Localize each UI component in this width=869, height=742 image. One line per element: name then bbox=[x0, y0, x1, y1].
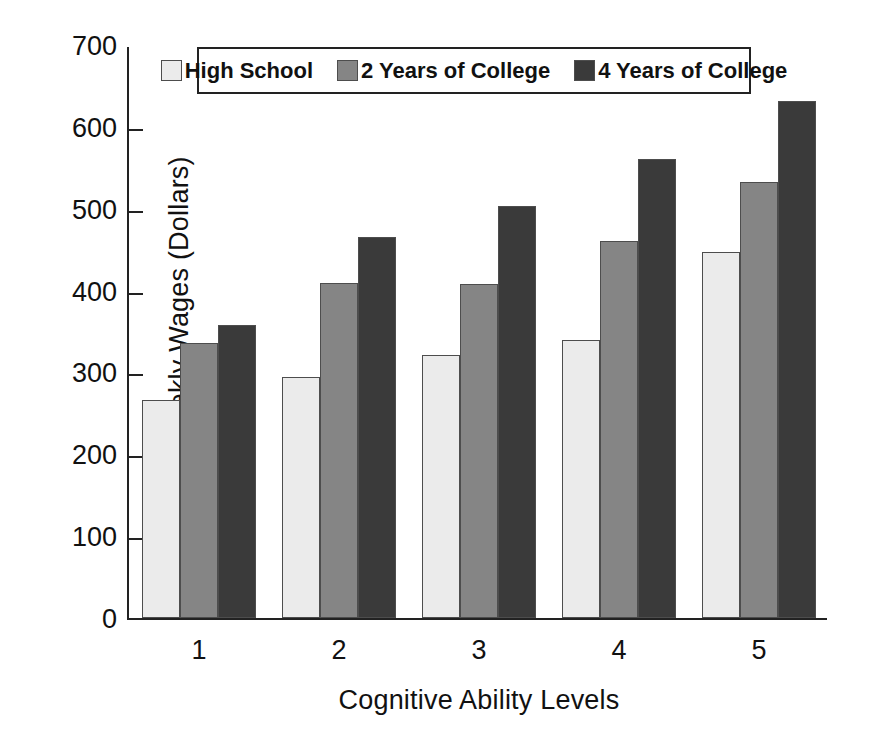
legend-swatch-icon bbox=[161, 60, 182, 81]
bar bbox=[142, 400, 180, 618]
y-tick-label: 400 bbox=[72, 277, 117, 308]
legend-item: 4 Years of College bbox=[574, 58, 787, 84]
y-tick-label: 300 bbox=[72, 358, 117, 389]
y-tick-mark bbox=[129, 211, 143, 213]
bar bbox=[180, 343, 218, 618]
x-tick-label-3: 3 bbox=[449, 635, 509, 666]
bar bbox=[218, 325, 256, 618]
x-tick-label-2: 2 bbox=[309, 635, 369, 666]
y-tick-mark bbox=[129, 456, 143, 458]
x-tick-label-4: 4 bbox=[589, 635, 649, 666]
legend-label: 4 Years of College bbox=[598, 58, 787, 84]
y-tick-mark bbox=[129, 129, 143, 131]
legend-label: High School bbox=[185, 58, 313, 84]
legend-label: 2 Years of College bbox=[361, 58, 550, 84]
bar bbox=[740, 182, 778, 618]
x-tick-label-5: 5 bbox=[729, 635, 789, 666]
y-tick-label: 0 bbox=[102, 604, 117, 635]
legend-swatch-icon bbox=[574, 60, 595, 81]
y-tick-label: 200 bbox=[72, 440, 117, 471]
plot-area: Weekly Wages (Dollars) 01002003004005006… bbox=[127, 47, 827, 620]
x-axis-title: Cognitive Ability Levels bbox=[129, 685, 829, 716]
chart-page: Weekly Wages (Dollars) 01002003004005006… bbox=[0, 0, 869, 742]
bar bbox=[562, 340, 600, 618]
bar bbox=[778, 101, 816, 618]
y-tick-label: 100 bbox=[72, 522, 117, 553]
legend-item: High School bbox=[161, 58, 313, 84]
chart-legend: High School2 Years of College4 Years of … bbox=[197, 47, 751, 94]
y-tick-mark bbox=[129, 538, 143, 540]
x-tick-label-1: 1 bbox=[169, 635, 229, 666]
y-tick-mark bbox=[129, 374, 143, 376]
bar bbox=[638, 159, 676, 618]
bar bbox=[460, 284, 498, 618]
bar bbox=[320, 283, 358, 618]
y-tick-label: 700 bbox=[72, 31, 117, 62]
bar bbox=[702, 252, 740, 618]
bar bbox=[422, 355, 460, 618]
legend-swatch-icon bbox=[337, 60, 358, 81]
bar bbox=[498, 206, 536, 618]
bar bbox=[282, 377, 320, 618]
y-tick-label: 500 bbox=[72, 195, 117, 226]
y-tick-label: 600 bbox=[72, 113, 117, 144]
legend-item: 2 Years of College bbox=[337, 58, 550, 84]
bar bbox=[600, 241, 638, 618]
bar bbox=[358, 237, 396, 618]
y-tick-mark bbox=[129, 293, 143, 295]
